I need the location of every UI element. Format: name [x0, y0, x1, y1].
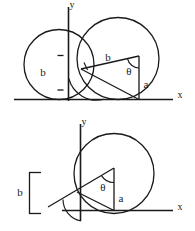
bottom-panel: b θ a y x — [17, 116, 182, 221]
figure-root: b b θ a y x — [0, 0, 195, 231]
bottom-triangle-base — [77, 192, 114, 211]
bottom-radius-label: b — [17, 186, 23, 198]
bottom-opposite-label: a — [119, 192, 124, 204]
top-panel: b b θ a y x — [14, 0, 183, 101]
top-angle-label: θ — [126, 65, 131, 77]
bottom-x-axis-label: x — [178, 201, 183, 212]
geometry-figure: b b θ a y x — [0, 0, 195, 231]
top-opposite-label: a — [144, 78, 149, 90]
top-hypotenuse-label: b — [105, 51, 111, 63]
top-overlap-arc — [69, 79, 104, 101]
top-y-axis-label: y — [70, 0, 75, 10]
bottom-angle-label: θ — [100, 181, 105, 193]
top-x-axis-label: x — [178, 89, 183, 100]
top-left-circle — [24, 30, 94, 100]
bottom-y-axis-label: y — [82, 116, 87, 127]
top-radius-label: b — [40, 66, 46, 78]
